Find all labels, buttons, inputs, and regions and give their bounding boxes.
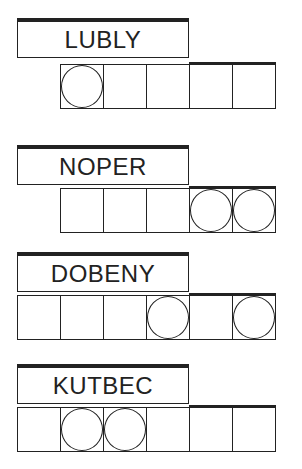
scrambled-word: DOBENY bbox=[51, 260, 155, 288]
answer-cell-circled[interactable] bbox=[60, 64, 104, 109]
answer-cell[interactable] bbox=[103, 188, 147, 233]
answer-cell[interactable] bbox=[17, 295, 61, 340]
scrambled-word: NOPER bbox=[59, 153, 147, 181]
scrambled-word-box: DOBENY bbox=[17, 252, 189, 292]
answer-cell[interactable] bbox=[146, 64, 190, 109]
answer-cell-circled[interactable] bbox=[232, 188, 276, 233]
puzzle-lubly: LUBLY bbox=[0, 18, 302, 118]
answer-cell[interactable] bbox=[189, 295, 233, 340]
answer-cell[interactable] bbox=[146, 188, 190, 233]
answer-cell[interactable] bbox=[103, 64, 147, 109]
puzzle-dobeny: DOBENY bbox=[0, 252, 302, 352]
answer-cell-circled[interactable] bbox=[189, 188, 233, 233]
answer-cell[interactable] bbox=[17, 407, 61, 452]
answer-cell[interactable] bbox=[146, 407, 190, 452]
answer-cell[interactable] bbox=[232, 407, 276, 452]
scrambled-word: KUTBEC bbox=[53, 372, 153, 400]
scrambled-word-box: NOPER bbox=[17, 145, 189, 185]
scrambled-word-box: KUTBEC bbox=[17, 364, 189, 404]
answer-cell[interactable] bbox=[103, 295, 147, 340]
answer-cell[interactable] bbox=[60, 188, 104, 233]
answer-cell[interactable] bbox=[189, 64, 233, 109]
answer-cell[interactable] bbox=[60, 295, 104, 340]
answer-cell-circled[interactable] bbox=[103, 407, 147, 452]
scrambled-word-box: LUBLY bbox=[17, 18, 189, 58]
puzzle-kutbec: KUTBEC bbox=[0, 364, 302, 464]
answer-cell[interactable] bbox=[232, 64, 276, 109]
answer-cell-circled[interactable] bbox=[232, 295, 276, 340]
answer-cell-circled[interactable] bbox=[60, 407, 104, 452]
scrambled-word: LUBLY bbox=[65, 26, 142, 54]
answer-cell-circled[interactable] bbox=[146, 295, 190, 340]
answer-cell[interactable] bbox=[189, 407, 233, 452]
puzzle-noper: NOPER bbox=[0, 145, 302, 245]
